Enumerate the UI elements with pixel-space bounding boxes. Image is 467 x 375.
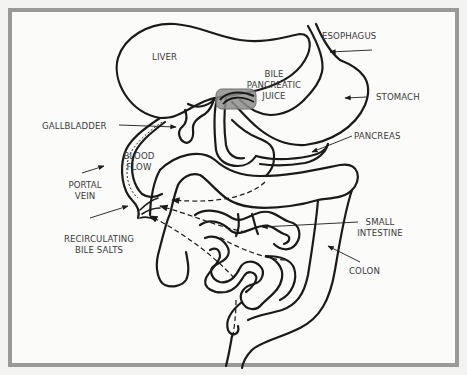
pancreas-outline bbox=[256, 144, 328, 165]
label-pancreas: PANCREAS bbox=[354, 131, 400, 141]
duodenum-loop bbox=[232, 120, 274, 176]
label-flow: FLOW bbox=[114, 162, 164, 172]
label-colon: COLON bbox=[349, 266, 380, 276]
pointer-esophagus bbox=[330, 50, 372, 52]
label-vein: VEIN bbox=[60, 191, 110, 201]
descending-colon-outer bbox=[242, 190, 352, 368]
label-small: SMALL bbox=[350, 217, 410, 227]
small-intestine-coil-5 bbox=[262, 256, 282, 304]
pointer-stomach bbox=[345, 97, 367, 98]
rectum bbox=[226, 336, 232, 366]
label-blood: BLOOD bbox=[114, 151, 164, 161]
label-intestine: INTESTINE bbox=[350, 228, 410, 238]
small-intestine-loop-a bbox=[236, 214, 239, 236]
label-esophagus: ESOPHAGUS bbox=[322, 31, 376, 41]
label-stomach: STOMACH bbox=[376, 92, 420, 102]
pointer-portal-vein bbox=[82, 166, 104, 173]
label-juice: JUICE bbox=[244, 91, 304, 101]
label-recirculating: RECIRCULATING bbox=[56, 234, 142, 244]
small-intestine-coil-6 bbox=[266, 256, 295, 300]
label-bile-salts: BILE SALTS bbox=[56, 245, 142, 255]
small-intestine-loop-b bbox=[252, 214, 258, 234]
pointer-recirculating bbox=[90, 206, 128, 218]
label-bile: BILE bbox=[244, 69, 304, 79]
label-gallbladder: GALLBLADDER bbox=[42, 121, 107, 131]
transverse-colon-top bbox=[160, 154, 358, 200]
label-portal: PORTAL bbox=[60, 180, 110, 190]
label-pancreatic: PANCREATIC bbox=[244, 80, 304, 90]
small-intestine-coil-2 bbox=[200, 221, 289, 244]
label-liver: LIVER bbox=[152, 52, 177, 62]
mesenteric-branch-3 bbox=[140, 217, 156, 220]
pointer-colon bbox=[328, 246, 360, 262]
transverse-colon-bottom bbox=[178, 174, 318, 208]
recirculation-path-3 bbox=[150, 216, 234, 278]
